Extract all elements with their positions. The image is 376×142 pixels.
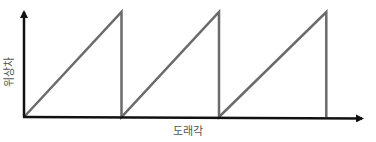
- sawtooth-chart: [0, 0, 376, 142]
- sawtooth-series: [24, 12, 326, 117]
- x-axis-label: 도래각: [0, 122, 376, 138]
- sawtooth-line: [24, 12, 326, 117]
- x-axis: [23, 117, 362, 119]
- y-axis-label: 위상차: [0, 52, 16, 92]
